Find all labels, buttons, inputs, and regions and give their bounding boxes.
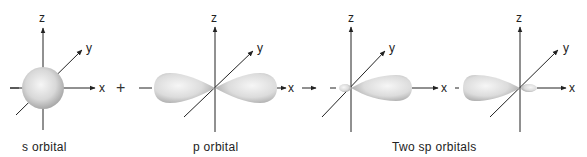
plus-operator: + <box>116 80 125 96</box>
x-axis-label: x <box>99 82 105 94</box>
sp-orbital-2-panel <box>455 27 566 132</box>
z-axis-label: z <box>348 12 354 24</box>
p-orbital-panel <box>139 27 316 132</box>
p-lobe-right <box>215 73 277 103</box>
sp-minor-lobe <box>339 84 351 92</box>
orbital-diagram <box>0 0 587 157</box>
z-axis-label: z <box>39 12 45 24</box>
s-orbital-sphere <box>22 67 64 109</box>
z-axis-label: z <box>211 12 217 24</box>
sp-minor-lobe <box>521 84 537 92</box>
p-orbital-caption: p orbital <box>193 140 238 154</box>
y-axis-label: y <box>257 42 263 54</box>
s-orbital-caption: s orbital <box>22 140 67 154</box>
y-axis-label: y <box>563 42 569 54</box>
y-axis-label: y <box>389 42 395 54</box>
sp-major-lobe <box>463 75 520 101</box>
sp-orbital-1-panel <box>322 27 438 132</box>
sp-orbitals-caption: Two sp orbitals <box>392 140 477 154</box>
sp-major-lobe <box>351 75 412 101</box>
x-axis-label: x <box>288 82 294 94</box>
x-axis-label: x <box>569 82 575 94</box>
y-axis-label: y <box>86 42 92 54</box>
p-lobe-left <box>154 73 215 103</box>
z-axis-label: z <box>516 12 522 24</box>
s-orbital-panel <box>10 28 95 130</box>
x-axis-label: x <box>441 82 447 94</box>
